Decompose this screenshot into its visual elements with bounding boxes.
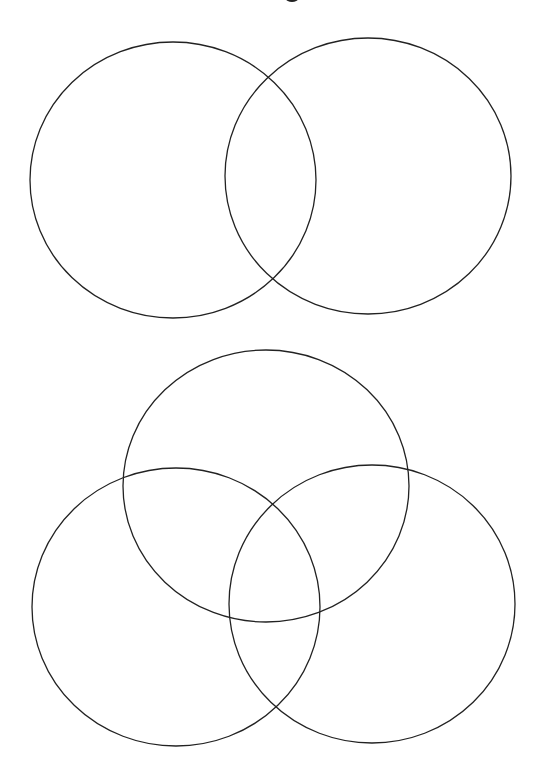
venn3-circle-bottom-right (229, 465, 515, 743)
venn2-circle-left (30, 42, 316, 318)
venn3-circle-bottom-left (32, 468, 320, 746)
three-set-venn-diagram (32, 350, 515, 746)
venn3-circle-top (123, 350, 409, 622)
venn-diagram-canvas (0, 0, 546, 777)
venn2-circle-right (225, 38, 511, 314)
two-set-venn-diagram (30, 38, 511, 318)
